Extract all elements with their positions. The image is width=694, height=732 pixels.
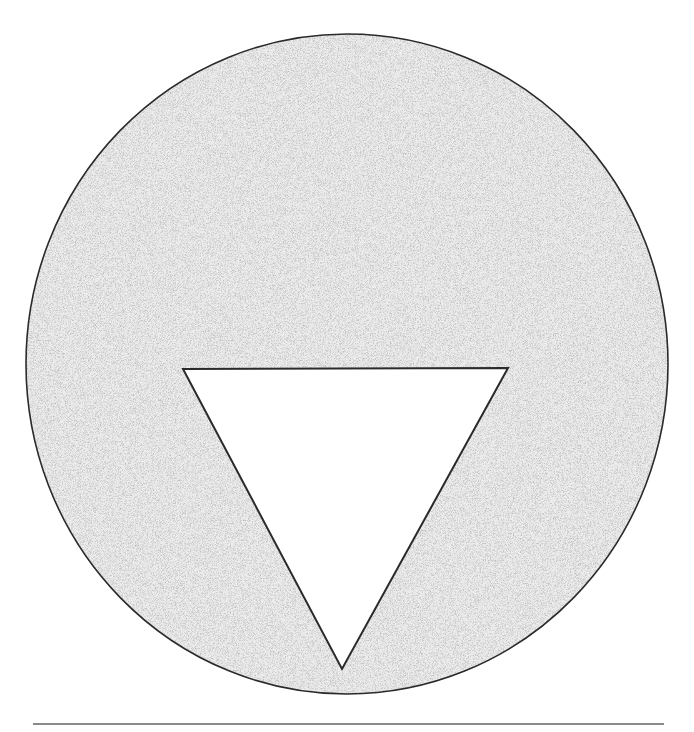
figure-caption-clipped <box>90 727 650 732</box>
figure-diagram <box>0 0 694 732</box>
caption-separator-rule <box>33 723 664 725</box>
